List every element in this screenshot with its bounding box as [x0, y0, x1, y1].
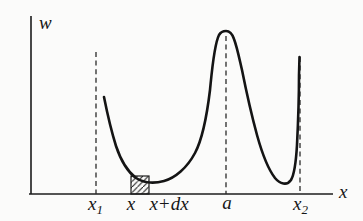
x2-tick-subscript: 2: [301, 202, 308, 217]
figure-background: [0, 0, 363, 221]
function-sketch-figure: w x x1 x x+dx a x2: [0, 0, 363, 221]
a-tick-label: a: [222, 192, 232, 213]
interval-right-label: x+dx: [148, 193, 189, 214]
x1-tick-subscript: 1: [96, 202, 103, 217]
x-axis-label: x: [338, 181, 348, 202]
interval-left-label: x: [126, 193, 136, 214]
y-axis-label: w: [39, 12, 52, 33]
